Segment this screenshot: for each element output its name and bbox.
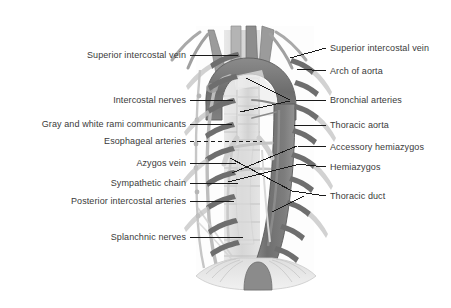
label-thoracic-duct: Thoracic duct — [330, 191, 385, 201]
label-posterior-intercostal-arteries: Posterior intercostal arteries — [71, 196, 186, 206]
label-intercostal-nerves: Intercostal nerves — [113, 95, 186, 105]
leader-accessory-hemiazygos — [298, 146, 326, 147]
label-superior-intercostal-vein: Superior intercostal vein — [87, 50, 186, 60]
leader-accessory-hemiazygos-pointer — [232, 146, 297, 173]
label-accessory-hemiazygos: Accessory hemiazygos — [330, 142, 424, 152]
label-hemiazygos: Hemiazygos — [330, 162, 381, 172]
label-splanchnic-nerves: Splanchnic nerves — [111, 232, 186, 242]
leader-superior-intercostal-vein-right — [290, 48, 326, 58]
label-esophageal-arteries: Esophageal arteries — [104, 136, 186, 146]
leader-thoracic-duct-pointer — [230, 158, 292, 191]
leader-thoracic-duct-free-tick — [272, 196, 304, 212]
label-sympathetic-chain: Sympathetic chain — [111, 178, 186, 188]
leader-arch-of-aorta — [297, 69, 326, 71]
label-thoracic-aorta: Thoracic aorta — [330, 120, 389, 130]
leader-hemiazygos — [296, 164, 326, 167]
label-azygos-vein: Azygos vein — [136, 158, 186, 168]
leader-bronchial-arteries-pointer-b — [240, 101, 290, 112]
leader-thoracic-duct — [292, 191, 326, 196]
label-gray-and-white-rami-communicants: Gray and white rami communicants — [42, 119, 186, 129]
leader-hemiazygos-pointer — [228, 165, 296, 182]
label-arch-of-aorta: Arch of aorta — [330, 66, 383, 76]
label-bronchial-arteries: Bronchial arteries — [330, 95, 402, 105]
leader-bronchial-arteries-pointer-a — [246, 78, 290, 100]
label-superior-intercostal-vein-right: Superior intercostal vein — [330, 43, 429, 53]
